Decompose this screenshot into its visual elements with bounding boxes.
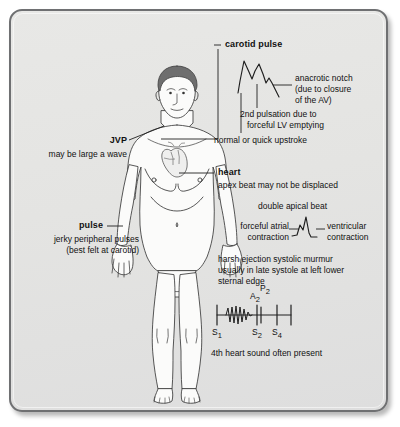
- label-carotid-pulse: carotid pulse: [225, 39, 282, 50]
- diagram-canvas: carotid pulse anacrotic notch (due to cl…: [0, 0, 400, 427]
- text-jvp-detail: may be large a wave: [19, 149, 127, 159]
- text-fourth-heart-sound: 4th heart sound often present: [211, 348, 322, 358]
- label-heart: heart: [218, 167, 241, 178]
- text-murmur-line3: sternal edge: [218, 276, 265, 286]
- apical-beat-waveform: [292, 217, 317, 237]
- label-a2: A2: [250, 291, 260, 304]
- text-ventricular-line2: contraction: [327, 232, 369, 242]
- text-heart-detail: apex beat may not be displaced: [218, 180, 338, 190]
- text-anacrotic-notch-line3: of the AV): [295, 95, 332, 105]
- text-anacrotic-notch-line1: anacrotic notch: [295, 73, 353, 83]
- text-murmur-line1: harsh ejection systolic murmur: [218, 254, 333, 264]
- carotid-waveform: [238, 61, 279, 97]
- text-pulse-line1: jerky peripheral pulses: [11, 234, 139, 244]
- phonocardiogram: [217, 305, 291, 325]
- text-atrial-line1: forceful atrial: [207, 221, 289, 231]
- text-second-pulsation-line1: 2nd pulsation due to: [240, 109, 317, 119]
- illustration-panel: carotid pulse anacrotic notch (due to cl…: [9, 9, 388, 412]
- label-s4: S4: [272, 327, 282, 340]
- text-double-apical-beat: double apical beat: [258, 201, 327, 211]
- label-p2: P2: [260, 283, 270, 296]
- text-upstroke: normal or quick upstroke: [214, 135, 307, 145]
- waveforms: [11, 11, 386, 410]
- label-s2: S2: [252, 327, 262, 340]
- text-second-pulsation-line2: forceful LV emptying: [247, 120, 324, 130]
- text-pulse-line2: (best felt at carotid): [11, 245, 139, 255]
- label-s1: S1: [212, 327, 222, 340]
- text-atrial-line2: contraction: [207, 232, 289, 242]
- text-ventricular-line1: ventricular: [327, 221, 366, 231]
- label-jvp: JVP: [31, 135, 127, 146]
- text-murmur-line2: usually in late systole at left lower: [218, 265, 344, 275]
- label-pulse: pulse: [21, 220, 103, 231]
- text-anacrotic-notch-line2: (due to closure: [295, 84, 351, 94]
